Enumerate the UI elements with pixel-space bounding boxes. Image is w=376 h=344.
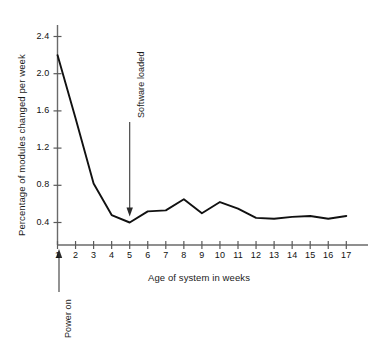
data-series-line: [58, 55, 347, 222]
x-tick-label: 8: [175, 251, 193, 260]
software-loaded-arrow: [127, 122, 133, 217]
x-tick-label: 1: [49, 251, 67, 260]
y-tick-label: 2.4: [24, 32, 50, 41]
x-tick-label: 12: [247, 251, 265, 260]
y-tick-label: 1.6: [24, 106, 50, 115]
x-tick-label: 7: [157, 251, 175, 260]
x-tick-label: 14: [283, 251, 301, 260]
x-axis-title: Age of system in weeks: [148, 272, 250, 283]
x-tick-label: 3: [85, 251, 103, 260]
x-tick-label: 5: [121, 251, 139, 260]
x-tick-label: 17: [337, 251, 355, 260]
y-tick-label: 0.8: [24, 180, 50, 189]
line-chart-canvas: [0, 0, 376, 344]
y-tick-label: 0.4: [24, 218, 50, 227]
y-axis-title: Percentage of modules changed per week: [16, 54, 27, 236]
x-tick-label: 9: [193, 251, 211, 260]
y-tick-label: 2.0: [24, 69, 50, 78]
x-tick-label: 6: [139, 251, 157, 260]
x-tick-label: 10: [211, 251, 229, 260]
x-tick-label: 13: [265, 251, 283, 260]
annotation-software-loaded: Software loaded: [136, 51, 146, 118]
annotation-power-on: Power on: [63, 299, 73, 338]
x-tick-label: 2: [67, 251, 85, 260]
x-tick-label: 16: [319, 251, 337, 260]
x-tick-label: 15: [301, 251, 319, 260]
chart-container: 2.42.01.61.20.80.4 123456789101112131415…: [0, 0, 376, 344]
y-tick-label: 1.2: [24, 143, 50, 152]
x-tick-label: 11: [229, 251, 247, 260]
x-tick-label: 4: [103, 251, 121, 260]
